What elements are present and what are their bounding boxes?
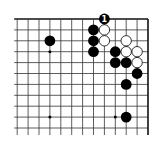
black-stone — [88, 35, 99, 46]
star-point — [48, 116, 51, 119]
white-stone — [99, 36, 109, 46]
black-stone — [110, 46, 121, 57]
black-stone — [110, 57, 121, 68]
black-stone — [45, 35, 56, 46]
black-stone — [88, 46, 99, 57]
black-stone — [88, 25, 99, 36]
black-stone — [121, 112, 132, 123]
black-stone — [132, 68, 143, 79]
black-stone — [121, 57, 132, 68]
black-stone-icon — [88, 25, 99, 36]
black-stone-icon — [121, 112, 132, 123]
star-point — [48, 50, 51, 53]
white-stone-icon — [121, 36, 131, 46]
black-stone-icon — [121, 57, 132, 68]
white-stone-icon — [121, 47, 131, 57]
white-stone — [99, 25, 109, 35]
move-number-label: 1 — [102, 15, 108, 24]
black-stone-icon — [88, 35, 99, 46]
white-stone-icon — [99, 25, 109, 35]
star-point — [114, 116, 117, 119]
black-stone-icon — [45, 35, 56, 46]
black-stone-icon — [132, 68, 143, 79]
black-stone-icon — [121, 79, 132, 90]
white-stone-icon — [132, 57, 142, 67]
black-stone — [121, 79, 132, 90]
black-stone-icon — [88, 46, 99, 57]
white-stone — [121, 36, 131, 46]
white-stone — [121, 47, 131, 57]
white-stone-icon — [99, 36, 109, 46]
black-stone: 1 — [99, 14, 110, 25]
black-stone-icon — [110, 46, 121, 57]
white-stone — [132, 57, 142, 67]
black-stone-icon — [110, 57, 121, 68]
go-board: 1 — [0, 0, 161, 148]
white-stone — [132, 47, 142, 57]
white-stone-icon — [132, 47, 142, 57]
